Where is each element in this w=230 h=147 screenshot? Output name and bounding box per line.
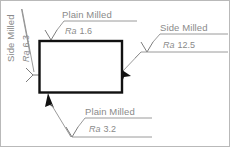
ra-symbol-right: Ra <box>163 40 175 50</box>
annotation-label-right-process: Side Milled <box>160 22 208 33</box>
annotation-label-right-ra: Ra12.5 <box>163 40 195 50</box>
annotation-label-bottom-process: Plain Milled <box>85 106 135 117</box>
ra-value-right: 12.5 <box>178 40 196 50</box>
annotation-label-top-process: Plain Milled <box>62 9 112 20</box>
ra-value-left: 6.3 <box>21 35 31 48</box>
surface-symbol-left <box>26 68 33 82</box>
leader-line-bottom-diagonal <box>51 104 71 137</box>
ra-symbol-left: Ra <box>21 50 31 62</box>
annotation-label-bottom-ra: Ra3.2 <box>89 124 116 134</box>
surface-symbol-right <box>141 42 153 52</box>
ra-symbol-top: Ra <box>65 26 77 36</box>
ra-symbol-bottom: Ra <box>89 124 101 134</box>
engineering-drawing: Side Milled Ra6.3 Plain Milled Ra1.6 Sid… <box>0 0 230 147</box>
arrowhead-bottom <box>45 93 54 108</box>
ra-value-bottom: 3.2 <box>104 124 117 134</box>
annotation-label-top-ra: Ra1.6 <box>65 26 92 36</box>
surface-symbol-top <box>45 30 57 40</box>
ra-value-top: 1.6 <box>80 26 93 36</box>
leader-line-right-joint <box>135 52 141 58</box>
part-outline-rectangle <box>40 41 123 93</box>
drawing-canvas: Side Milled Ra6.3 Plain Milled Ra1.6 Sid… <box>0 0 230 147</box>
annotation-label-left-process: Side Milled <box>5 14 16 62</box>
